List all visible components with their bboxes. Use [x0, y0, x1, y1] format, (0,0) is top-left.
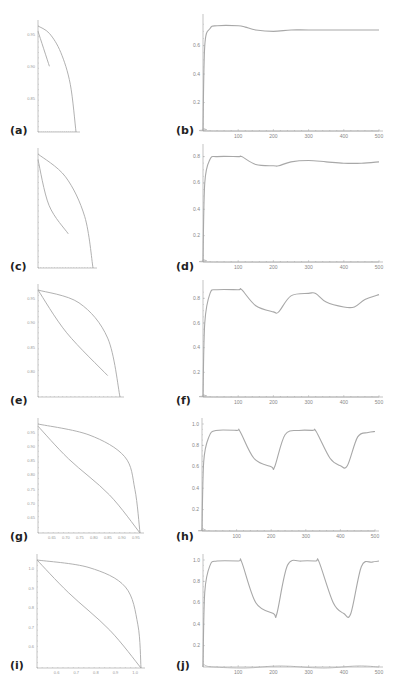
- chart-i: 1.00.90.80.70.60.60.70.80.91.0: [28, 554, 145, 675]
- series-inner: [38, 426, 140, 533]
- svg-text:0.8: 0.8: [193, 295, 200, 301]
- svg-text:0.85: 0.85: [27, 96, 36, 101]
- svg-text:0.8: 0.8: [192, 442, 199, 448]
- series-inner: [38, 160, 68, 234]
- svg-text:100: 100: [232, 533, 241, 539]
- figure-canvas: 0.950.900.851002003004005000.20.40.61002…: [0, 0, 396, 689]
- svg-text:0.8: 0.8: [28, 605, 34, 610]
- svg-text:0.95: 0.95: [132, 535, 141, 540]
- chart-e: 0.950.900.850.80: [27, 284, 124, 397]
- chart-b: 1002003004005000.20.40.6: [193, 14, 383, 139]
- svg-text:0.6: 0.6: [193, 179, 200, 185]
- svg-text:0.6: 0.6: [54, 670, 60, 675]
- svg-text:100: 100: [234, 669, 243, 675]
- svg-text:300: 300: [304, 133, 313, 139]
- svg-text:0.80: 0.80: [27, 472, 36, 477]
- svg-text:500: 500: [371, 533, 380, 539]
- svg-text:400: 400: [340, 669, 349, 675]
- svg-text:0.2: 0.2: [193, 642, 200, 648]
- svg-text:0.8: 0.8: [193, 578, 200, 584]
- svg-text:0.90: 0.90: [27, 444, 36, 449]
- series-small: [198, 528, 375, 531]
- svg-text:0.4: 0.4: [193, 71, 200, 77]
- svg-text:100: 100: [234, 133, 243, 139]
- series-outer: [38, 26, 76, 132]
- svg-text:0.95: 0.95: [27, 296, 36, 301]
- series-small: [199, 128, 379, 131]
- series-small: [199, 259, 379, 262]
- svg-text:0.9: 0.9: [28, 586, 34, 591]
- series-main: [202, 429, 375, 531]
- svg-text:0.70: 0.70: [62, 535, 71, 540]
- svg-text:0.75: 0.75: [76, 535, 85, 540]
- svg-text:0.4: 0.4: [192, 485, 199, 491]
- svg-text:0.6: 0.6: [193, 599, 200, 605]
- svg-text:0.6: 0.6: [28, 644, 34, 649]
- svg-text:0.90: 0.90: [118, 535, 127, 540]
- chart-f: 1002003004005000.20.40.60.8: [193, 280, 383, 405]
- svg-text:0.90: 0.90: [27, 320, 36, 325]
- svg-text:500: 500: [375, 264, 384, 270]
- svg-text:0.2: 0.2: [192, 506, 199, 512]
- series-inner: [38, 290, 108, 376]
- svg-text:0.4: 0.4: [193, 206, 200, 212]
- series-small: [203, 664, 379, 668]
- svg-text:0.65: 0.65: [27, 515, 36, 520]
- svg-text:0.2: 0.2: [193, 99, 200, 105]
- series-main: [203, 559, 379, 667]
- series-outer: [38, 290, 120, 397]
- series-main: [203, 289, 379, 397]
- chart-d: 1002003004005000.20.40.60.8: [193, 144, 383, 270]
- svg-text:200: 200: [267, 533, 276, 539]
- svg-text:0.8: 0.8: [193, 153, 200, 159]
- svg-text:0.2: 0.2: [193, 369, 200, 375]
- svg-text:0.80: 0.80: [27, 369, 36, 374]
- chart-j: 1002003004005000.20.40.60.81.0: [193, 554, 383, 675]
- chart-a: 0.950.900.85: [27, 20, 80, 132]
- svg-text:0.7: 0.7: [73, 670, 79, 675]
- svg-text:1.0: 1.0: [192, 421, 199, 427]
- svg-text:0.6: 0.6: [192, 463, 199, 469]
- svg-text:0.75: 0.75: [27, 487, 36, 492]
- svg-text:400: 400: [340, 399, 349, 405]
- svg-text:0.95: 0.95: [27, 32, 36, 37]
- series-main: [203, 156, 379, 262]
- chart-c: [38, 148, 97, 268]
- series-inner: [38, 31, 49, 66]
- svg-text:500: 500: [375, 669, 384, 675]
- svg-text:0.85: 0.85: [27, 458, 36, 463]
- chart-g: 0.950.900.850.800.750.700.650.650.700.75…: [27, 418, 144, 540]
- series-inner: [37, 560, 141, 668]
- svg-text:0.95: 0.95: [27, 430, 36, 435]
- series-main: [203, 25, 379, 131]
- svg-text:200: 200: [269, 399, 278, 405]
- svg-text:0.6: 0.6: [193, 320, 200, 326]
- svg-text:100: 100: [234, 399, 243, 405]
- svg-text:0.65: 0.65: [48, 535, 57, 540]
- svg-text:300: 300: [304, 669, 313, 675]
- svg-text:0.85: 0.85: [27, 345, 36, 350]
- svg-text:0.4: 0.4: [193, 344, 200, 350]
- series-outer: [38, 424, 140, 533]
- svg-text:500: 500: [375, 399, 384, 405]
- svg-text:0.80: 0.80: [90, 535, 99, 540]
- svg-text:1.0: 1.0: [193, 557, 200, 563]
- svg-text:0.8: 0.8: [93, 670, 99, 675]
- svg-text:500: 500: [375, 133, 384, 139]
- svg-text:1.0: 1.0: [28, 566, 34, 571]
- svg-text:400: 400: [340, 264, 349, 270]
- svg-text:0.9: 0.9: [113, 670, 119, 675]
- svg-text:0.70: 0.70: [27, 501, 36, 506]
- svg-text:400: 400: [340, 133, 349, 139]
- svg-text:0.6: 0.6: [193, 42, 200, 48]
- svg-text:0.4: 0.4: [193, 621, 200, 627]
- svg-text:200: 200: [269, 133, 278, 139]
- chart-h: 1002003004005000.20.40.60.81.0: [192, 418, 379, 539]
- svg-text:200: 200: [269, 669, 278, 675]
- svg-text:400: 400: [336, 533, 345, 539]
- svg-text:0.7: 0.7: [28, 625, 34, 630]
- svg-text:100: 100: [234, 264, 243, 270]
- svg-text:300: 300: [304, 264, 313, 270]
- series-outer: [38, 154, 93, 268]
- svg-text:1.0: 1.0: [132, 670, 138, 675]
